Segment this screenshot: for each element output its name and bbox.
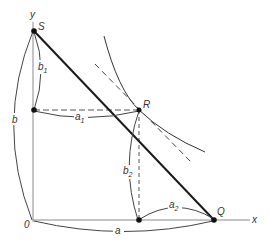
tangent-curve <box>104 36 205 152</box>
point-R <box>137 108 142 113</box>
dashed-tangent-line <box>95 64 192 163</box>
label-a: a <box>115 225 121 236</box>
label-b: b <box>12 114 18 125</box>
origin-label: 0 <box>24 219 30 230</box>
label-Q: Q <box>217 206 225 217</box>
brace-b <box>14 31 33 220</box>
segment-SQ <box>34 31 214 220</box>
y-axis-label: y <box>29 9 36 20</box>
point-S <box>31 28 37 34</box>
point-x-projection <box>136 217 142 223</box>
label-S: S <box>38 21 45 32</box>
label-R: R <box>143 99 150 110</box>
x-axis-label: x <box>251 214 258 225</box>
point-y-projection <box>31 107 37 113</box>
geometry-diagram: y x 0 S R Q b b1 a1 b2 a2 a <box>0 0 270 243</box>
point-Q <box>211 217 217 223</box>
